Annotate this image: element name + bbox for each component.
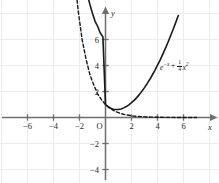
plus-sign: +	[171, 62, 175, 70]
x-superscript: 2	[186, 61, 189, 67]
curves	[63, 0, 197, 117]
y-tick-label: −2	[90, 139, 99, 149]
axes	[2, 7, 218, 181]
y-axis-label: y	[110, 8, 115, 18]
y-tick-label: 2	[95, 87, 99, 97]
graph-canvas: −6−4−2246642−2−4Oxy e−x + 1 4 x2	[0, 0, 219, 183]
origin-label: O	[96, 121, 102, 131]
y-tick-label: −4	[90, 165, 100, 175]
x-tick-label: −4	[49, 121, 59, 131]
x-tick-label: 4	[155, 121, 160, 131]
background-grid	[0, 0, 219, 183]
curve-equation-label: e−x + 1 4 x2	[160, 60, 189, 72]
plot-svg: −6−4−2246642−2−4Oxy	[0, 0, 219, 183]
y-tick-label: 6	[95, 35, 99, 45]
curve-solid-combined	[64, 0, 178, 110]
x-tick-label: 6	[181, 121, 185, 131]
exp-term: e−x	[160, 62, 170, 71]
exp-superscript: −x	[163, 61, 169, 67]
x-squared-term: x2	[182, 62, 188, 71]
x-tick-label: −6	[23, 121, 32, 131]
x-axis-arrowhead	[210, 114, 218, 121]
x-tick-label: −2	[75, 121, 84, 131]
x-tick-label: 2	[129, 121, 133, 131]
y-axis-arrowhead	[102, 7, 109, 15]
x-axis-label: x	[207, 122, 212, 132]
curve-dashed-exponential	[63, 0, 197, 117]
